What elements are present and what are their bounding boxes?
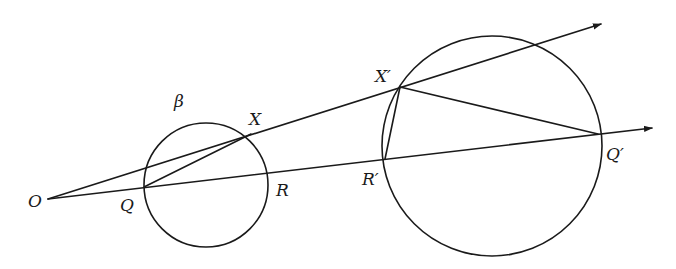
label-X: X bbox=[247, 109, 262, 129]
label-beta: β bbox=[173, 91, 184, 111]
label-R: R bbox=[275, 180, 289, 200]
label-O: O bbox=[28, 191, 42, 211]
diagram-canvas: O β Q X R X′ R′ Q′ bbox=[0, 0, 676, 269]
label-Q: Q bbox=[120, 195, 134, 215]
circle-image bbox=[382, 36, 602, 256]
segment-XpQp bbox=[400, 87, 598, 134]
ray-upper bbox=[48, 24, 601, 199]
ray-lower bbox=[48, 128, 652, 199]
label-X-prime: X′ bbox=[373, 66, 391, 86]
segment-QX bbox=[144, 134, 251, 187]
geometry-figure: O β Q X R X′ R′ Q′ bbox=[0, 0, 676, 269]
label-Q-prime: Q′ bbox=[606, 144, 624, 164]
label-R-prime: R′ bbox=[361, 169, 379, 189]
